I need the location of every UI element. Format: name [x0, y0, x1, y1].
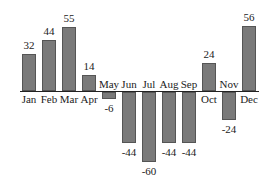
value-label: -60	[134, 165, 164, 177]
category-label: Oct	[194, 93, 224, 105]
bar-aug	[162, 92, 176, 143]
bar-jan	[22, 54, 36, 91]
bar-mar	[62, 27, 76, 91]
bar-dec	[242, 26, 256, 91]
value-label: 14	[74, 60, 104, 72]
value-label: 56	[234, 11, 264, 23]
bar-may	[102, 92, 116, 99]
value-label: -44	[114, 146, 144, 158]
bar-feb	[42, 40, 56, 91]
value-label: -24	[214, 123, 244, 135]
value-label: 55	[54, 12, 84, 24]
category-label: Nov	[214, 78, 244, 90]
value-label: -6	[94, 102, 124, 114]
category-label: Sep	[174, 78, 204, 90]
value-label: 24	[194, 48, 224, 60]
category-label: Dec	[234, 93, 264, 105]
bar-chart: 32Jan44Feb55Mar14Apr-6May-44Jun-60Jul-44…	[0, 0, 280, 180]
value-label: 44	[34, 25, 64, 37]
value-label: 32	[14, 39, 44, 51]
bar-jun	[122, 92, 136, 143]
value-label: -44	[174, 146, 204, 158]
